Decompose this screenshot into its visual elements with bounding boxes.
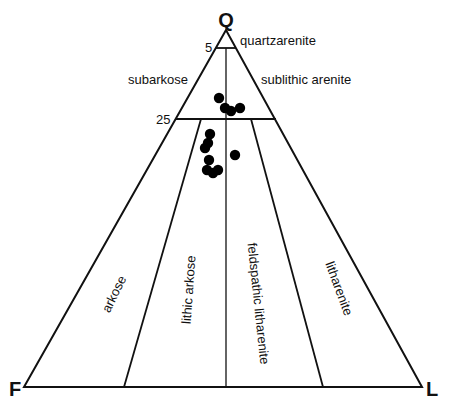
field-label-subarkose: subarkose	[128, 72, 188, 87]
vertex-label-f: F	[9, 378, 21, 400]
data-point	[214, 93, 224, 103]
vertex-label-l: L	[426, 378, 438, 400]
left-divider-line	[124, 119, 201, 387]
tick-label-25: 25	[156, 112, 170, 127]
field-label-quartzarenite: quartzarenite	[240, 33, 316, 48]
data-point	[204, 155, 214, 165]
data-point	[205, 129, 215, 139]
data-point	[226, 106, 236, 116]
vertex-label-q: Q	[218, 9, 234, 31]
data-point	[230, 150, 240, 160]
data-point	[213, 165, 223, 175]
data-point	[235, 103, 245, 113]
tick-label-5: 5	[205, 40, 212, 55]
sample-points	[200, 93, 245, 178]
field-label-lithic-arkose: lithic arkose	[179, 255, 199, 325]
ternary-outline	[24, 30, 422, 387]
field-label-arkose: arkose	[99, 273, 130, 315]
data-point	[200, 143, 210, 153]
field-label-litharenite: litharenite	[323, 259, 356, 317]
field-label-sublithic-arenite: sublithic arenite	[261, 72, 351, 87]
ternary-qfl-diagram: Q F L 5 25 quartzarenite subarkose subli…	[0, 0, 453, 404]
field-label-feldspathic-litharenite: feldspathic litharenite	[245, 242, 273, 365]
